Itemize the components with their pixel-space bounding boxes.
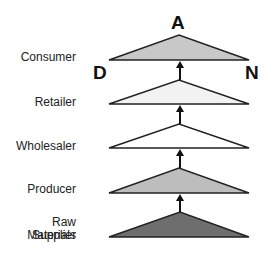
level-label-supplier: Supplier <box>0 229 76 242</box>
level-label-producer: Producer <box>0 183 76 196</box>
level-label-wholesaler: Wholesaler <box>0 140 76 153</box>
consumer-triangle <box>109 35 249 60</box>
retailer-triangle <box>109 80 249 104</box>
level-label-retailer: Retailer <box>0 96 76 109</box>
corner-label-d: D <box>93 62 107 84</box>
arrow-head-icon <box>176 61 184 68</box>
corner-label-a: A <box>171 12 185 34</box>
arrow-head-icon <box>176 149 184 156</box>
raw-materials-triangle <box>109 212 249 237</box>
corner-label-n: N <box>245 62 259 84</box>
arrow-head-icon <box>176 105 184 112</box>
level-label-consumer: Consumer <box>0 51 76 64</box>
wholesaler-triangle <box>109 124 249 148</box>
producer-triangle <box>109 168 249 193</box>
arrow-head-icon <box>176 194 184 201</box>
